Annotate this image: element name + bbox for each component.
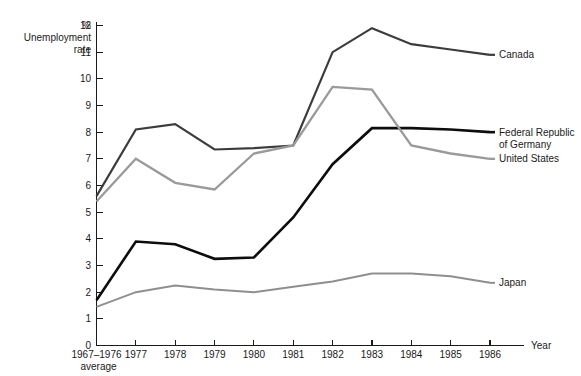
y-tick-7: 7 — [85, 153, 102, 164]
y-tick-label: 5 — [85, 207, 91, 218]
x-tick-1979: 1979 — [203, 340, 226, 361]
legend-item-united-states: United States — [490, 153, 559, 164]
chart-container: 0123456789101112 % Unemployment rate 196… — [0, 0, 581, 376]
x-tick-label: 1980 — [243, 349, 266, 360]
legend-item-japan: Japan — [490, 277, 526, 288]
x-tick-label: 1978 — [164, 349, 187, 360]
y-tick-label: 7 — [85, 153, 91, 164]
series-lines-group — [97, 28, 491, 307]
y-axis-title-line1: Unemployment — [24, 32, 91, 43]
y-tick-4: 4 — [85, 233, 102, 244]
legend-item-germany: Federal Republicof Germany — [490, 127, 575, 150]
x-tick-label: 1981 — [282, 349, 305, 360]
x-axis-ticks: 1967–1976average197719781979198019811982… — [71, 340, 501, 373]
unemployment-rate-line-chart: 0123456789101112 % Unemployment rate 196… — [0, 0, 581, 376]
legend-label: United States — [499, 153, 559, 164]
y-tick-label: 1 — [85, 313, 91, 324]
x-tick-1984: 1984 — [400, 340, 423, 361]
y-tick-10: 10 — [80, 73, 103, 84]
x-tick-1981: 1981 — [282, 340, 305, 361]
y-axis-unit-label: % — [82, 20, 91, 31]
x-tick-label: 1977 — [125, 349, 148, 360]
x-tick-label: 1983 — [361, 349, 384, 360]
x-axis-title: Year — [531, 340, 552, 351]
x-tick-label: 1967–1976 — [71, 349, 121, 360]
x-tick-1986: 1986 — [479, 340, 502, 361]
y-axis-group: 0123456789101112 % Unemployment rate — [24, 20, 103, 351]
y-tick-label: 9 — [85, 100, 91, 111]
y-tick-9: 9 — [85, 100, 102, 111]
x-tick-label: 1986 — [479, 349, 502, 360]
series-line-japan — [97, 274, 491, 307]
x-tick-label: 1985 — [440, 349, 463, 360]
legend-item-canada: Canada — [490, 49, 534, 60]
x-tick-label: 1982 — [321, 349, 344, 360]
y-tick-1: 1 — [85, 313, 102, 324]
x-tick-label: 1984 — [400, 349, 423, 360]
y-axis-ticks: 0123456789101112 — [80, 20, 103, 351]
x-tick-1982: 1982 — [321, 340, 344, 361]
y-tick-label: 3 — [85, 260, 91, 271]
chart-legend: CanadaFederal Republicof GermanyUnited S… — [490, 49, 575, 288]
x-axis-group: 1967–1976average197719781979198019811982… — [71, 340, 551, 373]
y-tick-label: 8 — [85, 127, 91, 138]
y-tick-label: 6 — [85, 180, 91, 191]
legend-label: Japan — [499, 277, 526, 288]
legend-label: Canada — [499, 49, 534, 60]
x-tick-1983: 1983 — [361, 340, 384, 361]
y-tick-label: 4 — [85, 233, 91, 244]
y-tick-5: 5 — [85, 207, 102, 218]
x-tick-1978: 1978 — [164, 340, 187, 361]
y-tick-label: 10 — [80, 73, 92, 84]
x-tick-sublabel: average — [80, 361, 117, 372]
legend-label-line2: of Germany — [499, 139, 551, 150]
y-axis-title-line2: rate — [74, 44, 92, 55]
x-tick-1985: 1985 — [440, 340, 463, 361]
y-tick-label: 2 — [85, 287, 91, 298]
legend-label: Federal Republic — [499, 127, 575, 138]
series-line-united-states — [97, 87, 491, 202]
y-tick-8: 8 — [85, 127, 102, 138]
x-tick-1967-1976-average: 1967–1976average — [71, 340, 121, 373]
x-tick-1980: 1980 — [243, 340, 266, 361]
x-tick-label: 1979 — [203, 349, 226, 360]
x-tick-1977: 1977 — [125, 340, 148, 361]
y-tick-3: 3 — [85, 260, 102, 271]
